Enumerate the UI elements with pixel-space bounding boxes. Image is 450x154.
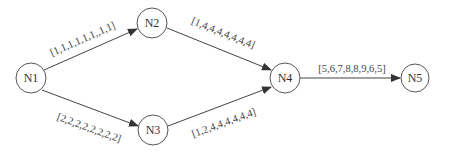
edge-n1-n2-label: [1,1,1,1,1,1,,1,1] <box>48 20 116 59</box>
node-n2-label: N2 <box>145 16 160 30</box>
edge-n3-n4: [1,2,4,4,4,4,4,4] <box>168 87 271 139</box>
edge-n2-n4-label: [1,4,4,4,4,4,4,4] <box>190 15 257 50</box>
node-n5-label: N5 <box>408 71 423 85</box>
node-n1-label: N1 <box>24 71 39 85</box>
node-n1: N1 <box>16 63 46 93</box>
node-n3-label: N3 <box>146 123 161 137</box>
node-n2: N2 <box>137 8 167 38</box>
edge-n1-n2: [1,1,1,1,1,1,,1,1] <box>44 20 137 70</box>
node-n4: N4 <box>270 63 300 93</box>
node-n4-label: N4 <box>278 71 293 85</box>
edge-n4-n5: [5,6,7,8,8,9,6,5] <box>300 63 400 78</box>
node-n5: N5 <box>401 64 429 92</box>
node-n3: N3 <box>138 115 168 145</box>
edge-n1-n3: [2,2,2,2,2,2,2,2] <box>42 90 138 144</box>
edge-n4-n5-label: [5,6,7,8,8,9,6,5] <box>318 63 385 74</box>
edge-n2-n4: [1,4,4,4,4,4,4,4] <box>167 15 271 70</box>
edge-n3-n4-label: [1,2,4,4,4,4,4,4] <box>190 106 257 139</box>
graph-canvas: [1,1,1,1,1,1,,1,1] [2,2,2,2,2,2,2,2] [1,… <box>0 0 450 154</box>
